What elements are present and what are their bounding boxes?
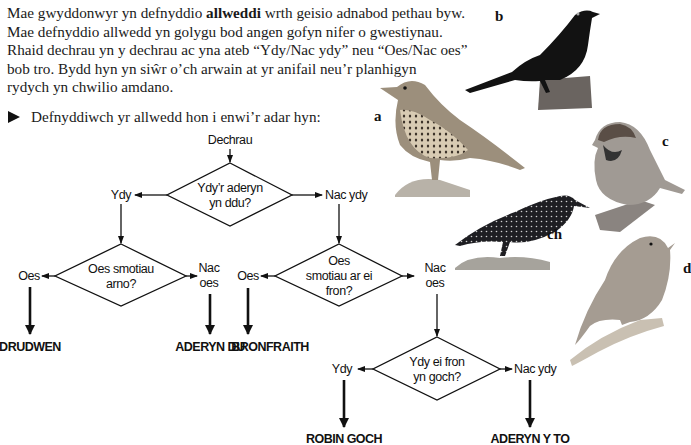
question-3-line-1: Oes	[328, 254, 350, 268]
question-3-line-2: smotiau ar ei	[306, 269, 372, 283]
q2-no-label-line-1: Nac	[198, 261, 219, 275]
question-1-line-2: yn ddu?	[209, 196, 251, 210]
start-label: Dechrau	[208, 133, 253, 147]
q1-yes-label: Ydy	[111, 188, 132, 202]
question-4-line-1: Ydy ei fron	[409, 355, 465, 369]
question-2-line-1: Oes smotiau	[88, 262, 154, 276]
q4-yes-label: Ydy	[332, 362, 353, 376]
q2-yes-label: Oes	[18, 269, 40, 283]
q3-no-label-line-1: Nac	[424, 261, 445, 275]
q3-yes-label: Oes	[237, 269, 259, 283]
question-1-line-1: Ydy’r aderyn	[197, 181, 263, 195]
q4-no-label: Nac ydy	[514, 362, 558, 376]
question-2-line-2: arno?	[106, 277, 136, 291]
question-4-line-2: yn goch?	[413, 370, 461, 384]
q2-no-label-line-2: oes	[200, 276, 219, 290]
result-robin: ROBIN GOCH	[306, 432, 383, 445]
result-thrush: BRONFRAITH	[231, 340, 309, 354]
q3-no-label-line-2: oes	[426, 276, 445, 290]
question-3-line-3: fron?	[326, 284, 353, 298]
q1-no-label: Nac ydy	[325, 188, 369, 202]
result-starling: DRUDWEN	[0, 340, 61, 354]
result-sparrow: ADERYN Y TO	[491, 432, 571, 445]
